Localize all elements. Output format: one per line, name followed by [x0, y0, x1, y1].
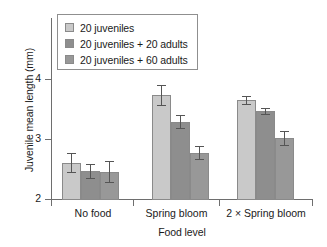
- error-bar-no-food-20-juveniles-60-adults: [105, 161, 114, 183]
- legend-swatch-20-juveniles-60-adults: [65, 55, 74, 64]
- legend-swatch-20-juveniles: [65, 23, 74, 32]
- legend-label-20-juveniles-20-adults: 20 juveniles + 20 adults: [80, 38, 188, 50]
- x-category-label-2x-spring-bloom: 2 × Spring bloom: [219, 207, 313, 219]
- x-tick-3: [312, 200, 313, 206]
- bar-spring-bloom-20-juveniles-60-adults: [190, 153, 209, 200]
- legend-item-20-juveniles: 20 juveniles: [65, 20, 197, 35]
- bar-2x-spring-bloom-20-juveniles-60-adults: [275, 138, 294, 200]
- bar-2x-spring-bloom-20-juveniles-20-adults: [256, 111, 275, 200]
- y-tick-4: [45, 79, 51, 80]
- bar-chart-figure: Juvenile mean length (mm) 4 3 2 No food …: [0, 0, 327, 247]
- y-tick-label-3: 3: [19, 132, 41, 144]
- legend: 20 juveniles 20 juveniles + 20 adults 20…: [57, 14, 198, 70]
- legend-item-20-juveniles-60-adults: 20 juveniles + 60 adults: [65, 52, 197, 67]
- x-tick-0: [51, 200, 52, 206]
- error-bar-spring-bloom-20-juveniles: [157, 85, 166, 106]
- bar-spring-bloom-20-juveniles-20-adults: [171, 122, 190, 200]
- error-bar-no-food-20-juveniles: [67, 153, 76, 173]
- x-tick-1: [133, 200, 134, 206]
- bar-no-food-20-juveniles-20-adults: [81, 171, 100, 200]
- x-axis-line: [51, 199, 313, 200]
- error-bar-2x-spring-bloom-20-juveniles-60-adults: [280, 131, 289, 146]
- error-bar-no-food-20-juveniles-20-adults: [86, 164, 95, 179]
- error-bar-2x-spring-bloom-20-juveniles: [242, 96, 251, 105]
- error-bar-spring-bloom-20-juveniles-20-adults: [176, 115, 185, 129]
- x-axis-title: Food level: [51, 226, 313, 238]
- legend-swatch-20-juveniles-20-adults: [65, 39, 74, 48]
- x-category-label-no-food: No food: [52, 207, 134, 219]
- bar-no-food-20-juveniles: [62, 163, 81, 200]
- y-tick-label-2: 2: [19, 192, 41, 204]
- y-tick-3: [45, 139, 51, 140]
- bar-spring-bloom-20-juveniles: [152, 95, 171, 200]
- y-axis-line: [51, 18, 52, 200]
- error-bar-spring-bloom-20-juveniles-60-adults: [195, 146, 204, 160]
- bar-no-food-20-juveniles-60-adults: [100, 172, 119, 200]
- legend-label-20-juveniles-60-adults: 20 juveniles + 60 adults: [80, 54, 188, 66]
- y-tick-label-4: 4: [19, 72, 41, 84]
- x-tick-2: [219, 200, 220, 206]
- bar-2x-spring-bloom-20-juveniles: [237, 100, 256, 200]
- legend-item-20-juveniles-20-adults: 20 juveniles + 20 adults: [65, 36, 197, 51]
- legend-label-20-juveniles: 20 juveniles: [80, 22, 134, 34]
- error-bar-2x-spring-bloom-20-juveniles-20-adults: [261, 108, 270, 115]
- y-axis-title: Juvenile mean length (mm): [23, 15, 35, 205]
- x-category-label-spring-bloom: Spring bloom: [134, 207, 219, 219]
